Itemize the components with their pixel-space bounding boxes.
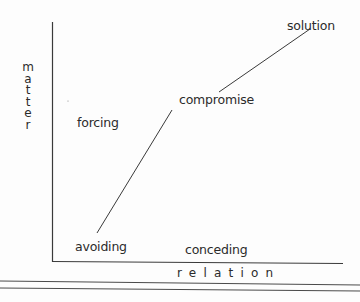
page-rule-lower bbox=[0, 288, 360, 291]
label-compromise: compromise bbox=[179, 93, 254, 107]
diagram-canvas: m a t t e r relation solution compromise… bbox=[0, 0, 360, 302]
y-axis-label: m a t t e r bbox=[21, 62, 35, 131]
x-axis-label: relation bbox=[177, 266, 280, 280]
diagram-lines bbox=[0, 0, 360, 302]
diagonal-upper-segment bbox=[219, 29, 310, 92]
label-conceding: conceding bbox=[185, 243, 247, 257]
label-avoiding: avoiding bbox=[75, 240, 127, 254]
x-axis-line bbox=[52, 262, 343, 264]
y-axis-letter: r bbox=[21, 120, 35, 132]
page-rule-upper bbox=[0, 281, 360, 285]
stray-dot bbox=[67, 100, 68, 101]
label-solution: solution bbox=[287, 19, 335, 33]
label-forcing: forcing bbox=[77, 116, 119, 130]
